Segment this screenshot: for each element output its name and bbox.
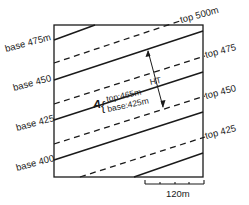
base-450-label: base 450 bbox=[12, 72, 53, 93]
ht-thickness-arrow: HT bbox=[146, 50, 166, 108]
base-475-line bbox=[54, 25, 95, 40]
geological-map-diagram: HT A { top:465m base:425m base 475m base… bbox=[0, 0, 249, 205]
point-a-label: A bbox=[92, 98, 101, 110]
top-450-label: top 450 bbox=[204, 82, 237, 101]
top-425-label: top 425 bbox=[204, 122, 237, 141]
point-a-annotation: A { top:465m base:425m bbox=[92, 87, 150, 114]
top-500-line bbox=[54, 21, 180, 63]
top-500-label: top 500m bbox=[179, 4, 220, 25]
base-labels: base 475m base 450 base 425 base 400 bbox=[4, 31, 56, 173]
base-400-label: base 400 bbox=[15, 152, 56, 173]
scale-bar: 120m bbox=[145, 180, 204, 199]
base-475-label: base 475m bbox=[4, 31, 52, 54]
top-475-label: top 475 bbox=[204, 41, 237, 60]
base-400-line bbox=[54, 112, 203, 160]
scale-bar-label: 120m bbox=[166, 188, 190, 199]
brace-icon: { bbox=[101, 98, 106, 113]
arrowhead-down-icon bbox=[161, 100, 166, 108]
top-425-line bbox=[80, 137, 205, 177]
base-425-label: base 425 bbox=[15, 112, 56, 133]
arrowhead-up-icon bbox=[146, 50, 151, 57]
